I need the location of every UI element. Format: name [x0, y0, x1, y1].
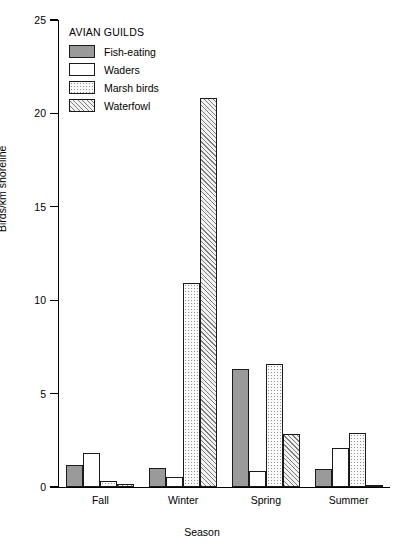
y-axis-label: Birds/km shoreline	[0, 146, 8, 232]
bar	[249, 471, 266, 487]
legend-item: Fish-eating	[65, 45, 159, 58]
bar	[149, 468, 166, 487]
bar	[232, 369, 249, 487]
y-axis-tick	[50, 206, 58, 207]
bar	[349, 433, 366, 487]
y-axis-tick-value: 20	[34, 107, 46, 119]
bar	[315, 469, 332, 487]
legend-item-label: Fish-eating	[104, 46, 156, 58]
legend-swatch	[69, 99, 95, 112]
y-axis-tick-value: 15	[34, 201, 46, 213]
legend-item-label: Waterfowl	[104, 100, 150, 112]
legend-item-label: Marsh birds	[104, 82, 159, 94]
x-axis-tick-label: Winter	[142, 494, 225, 506]
bar	[283, 434, 300, 487]
bar	[183, 283, 200, 487]
bar-group	[307, 20, 390, 487]
bar	[166, 477, 183, 487]
legend-swatch	[69, 45, 95, 58]
legend-item: Waterfowl	[65, 99, 159, 112]
bar	[66, 465, 83, 487]
y-axis-tick	[50, 393, 58, 394]
bar	[83, 453, 100, 487]
legend: AVIAN GUILDS Fish-eatingWadersMarsh bird…	[65, 26, 159, 117]
bar-group	[225, 20, 308, 487]
legend-swatch	[69, 81, 95, 94]
x-axis-category-labels: FallWinterSpringSummer	[59, 494, 390, 506]
y-axis-tick-value: 25	[34, 14, 46, 26]
y-axis-tick-value: 0	[40, 481, 46, 493]
legend-title: AVIAN GUILDS	[69, 26, 159, 38]
bar	[117, 484, 134, 487]
bar	[266, 364, 283, 487]
legend-item-label: Waders	[104, 64, 140, 76]
x-axis-tick-label: Summer	[307, 494, 390, 506]
x-axis-label: Season	[0, 526, 404, 538]
legend-item: Marsh birds	[65, 81, 159, 94]
y-axis-tick	[50, 300, 58, 301]
bar	[332, 448, 349, 487]
y-axis-tick	[50, 113, 58, 114]
x-axis-tick-label: Fall	[59, 494, 142, 506]
bar	[366, 485, 383, 487]
legend-item: Waders	[65, 63, 159, 76]
bar	[200, 98, 217, 487]
legend-swatch	[69, 63, 95, 76]
bar	[100, 481, 117, 487]
x-axis-line	[58, 487, 390, 488]
y-axis-tick-value: 10	[34, 294, 46, 306]
bar-chart: 0510152025 Birds/km shoreline Season Fal…	[0, 0, 404, 549]
y-axis-tick	[50, 486, 58, 487]
x-axis-tick-label: Spring	[225, 494, 308, 506]
y-axis-tick	[50, 19, 58, 20]
y-axis-tick-value: 5	[40, 388, 46, 400]
